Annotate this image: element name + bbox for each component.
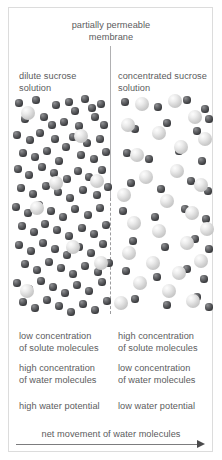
water-molecule <box>205 115 212 122</box>
sucrose-molecule <box>127 216 141 230</box>
water-molecule <box>43 296 50 303</box>
water-molecule <box>84 211 91 218</box>
water-molecule <box>43 147 50 154</box>
sucrose-molecule <box>30 201 44 215</box>
water-molecule <box>161 243 168 250</box>
water-molecule <box>102 148 109 155</box>
water-molecule <box>53 226 60 233</box>
sucrose-molecule <box>139 170 153 184</box>
water-molecule <box>29 190 36 197</box>
water-molecule <box>81 262 88 269</box>
net-movement-arrow-line <box>16 444 199 445</box>
water-molecule <box>103 297 110 304</box>
left-water-potential-label: high water potential <box>19 400 115 412</box>
sucrose-molecule <box>174 140 188 154</box>
water-molecule <box>201 105 208 112</box>
water-molecule <box>67 308 74 315</box>
sucrose-molecule <box>172 266 186 280</box>
sucrose-molecule <box>133 276 147 290</box>
water-molecule <box>73 281 80 288</box>
water-molecule <box>51 135 58 142</box>
water-molecule <box>205 245 212 252</box>
water-molecule <box>151 213 158 220</box>
water-molecule <box>93 191 100 198</box>
water-molecule <box>79 300 86 307</box>
water-molecule <box>40 113 47 120</box>
sucrose-molecule <box>188 110 202 124</box>
water-molecule <box>45 258 52 265</box>
water-molecule <box>31 304 38 311</box>
water-molecule <box>21 260 28 267</box>
water-molecule <box>78 224 85 231</box>
water-molecule <box>19 149 26 156</box>
water-molecule <box>85 287 92 294</box>
water-molecule <box>122 267 129 274</box>
water-molecule <box>31 153 38 160</box>
water-molecule <box>25 171 32 178</box>
water-molecule <box>61 289 68 296</box>
water-molecule <box>121 98 128 105</box>
water-molecule <box>79 186 86 193</box>
water-molecule <box>163 119 170 126</box>
water-molecule <box>13 279 20 286</box>
water-molecule <box>66 194 73 201</box>
water-molecule <box>38 163 45 170</box>
sucrose-molecule <box>49 176 63 190</box>
water-molecule <box>55 157 62 164</box>
sucrose-molecule <box>160 194 174 208</box>
water-molecule <box>30 228 37 235</box>
water-molecule <box>102 221 109 228</box>
water-molecule <box>15 241 22 248</box>
water-molecule <box>33 266 40 273</box>
water-molecule <box>99 240 106 247</box>
water-molecule <box>14 165 21 172</box>
water-molecule <box>96 204 103 211</box>
water-molecule <box>32 96 39 103</box>
water-molecule <box>37 277 44 284</box>
water-molecule <box>48 121 55 128</box>
water-molecule <box>59 213 66 220</box>
sucrose-molecule <box>185 206 199 220</box>
water-molecule <box>154 103 161 110</box>
water-molecule <box>100 121 107 128</box>
water-molecule <box>39 239 46 246</box>
sucrose-molecule <box>21 106 35 120</box>
sucrose-molecule <box>170 164 184 178</box>
water-molecule <box>81 95 88 102</box>
water-molecule <box>36 129 43 136</box>
sucrose-molecule <box>180 236 194 250</box>
sucrose-molecule <box>130 148 144 162</box>
molecule-field <box>9 95 212 317</box>
water-molecule <box>47 207 54 214</box>
water-molecule <box>69 270 76 277</box>
sucrose-molecule <box>20 284 34 298</box>
water-molecule <box>198 157 205 164</box>
water-molecule <box>71 205 78 212</box>
sucrose-molecule <box>152 224 166 238</box>
water-molecule <box>98 278 105 285</box>
sucrose-molecule <box>186 294 200 308</box>
sucrose-molecule <box>152 126 166 140</box>
water-molecule <box>87 249 94 256</box>
water-molecule <box>200 275 207 282</box>
water-molecule <box>205 303 212 310</box>
water-molecule <box>145 155 152 162</box>
water-molecule <box>91 113 98 120</box>
left-water-concentration-label: high concentration of water molecules <box>19 362 111 386</box>
water-molecule <box>90 230 97 237</box>
membrane-title: partially permeable membrane <box>0 19 222 43</box>
right-solute-concentration-label: high concentration of solute molecules <box>118 330 212 354</box>
water-molecule <box>41 220 48 227</box>
net-movement-caption: net movement of water molecules <box>0 428 222 440</box>
water-molecule <box>153 273 160 280</box>
water-molecule <box>129 237 136 244</box>
sucrose-molecule <box>168 94 182 108</box>
water-molecule <box>26 136 33 143</box>
sucrose-molecule <box>114 296 128 310</box>
sucrose-molecule <box>117 188 131 202</box>
water-molecule <box>12 203 19 210</box>
water-molecule <box>163 301 170 308</box>
left-solution-label: dilute sucrose solution <box>19 70 105 94</box>
net-movement-arrow-head <box>197 440 205 448</box>
water-molecule <box>52 101 59 108</box>
